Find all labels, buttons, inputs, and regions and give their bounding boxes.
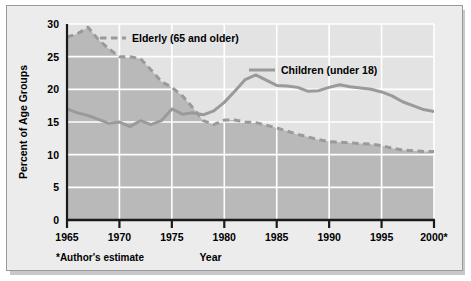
x-tick-label: 1985 <box>265 231 289 243</box>
x-tick-label: 1970 <box>108 231 132 243</box>
y-tick-label: 20 <box>47 83 59 95</box>
x-tick-label: 1975 <box>160 231 184 243</box>
footnote-author-estimate: *Author's estimate <box>56 252 144 263</box>
y-tick-label: 5 <box>53 181 59 193</box>
y-axis-title: Percent of Age Groups <box>17 65 29 179</box>
y-tick-label: 30 <box>47 18 59 30</box>
chart-svg: 0510152025301965197019751980198519901995… <box>0 0 471 281</box>
x-tick-label: 2000* <box>420 231 448 243</box>
chart-screenshot: 0510152025301965197019751980198519901995… <box>0 0 471 281</box>
y-tick-label: 25 <box>47 51 59 63</box>
x-axis-title: Year <box>199 251 221 263</box>
x-tick-label: 1995 <box>370 231 394 243</box>
y-tick-label: 10 <box>47 149 59 161</box>
x-tick-label: 1990 <box>317 231 341 243</box>
x-tick-label: 1965 <box>55 231 79 243</box>
legend-label-elderly: Elderly (65 and older) <box>132 32 239 44</box>
y-tick-label: 0 <box>53 214 59 226</box>
x-tick-label: 1980 <box>213 231 237 243</box>
y-tick-label: 15 <box>47 116 59 128</box>
legend-label-children: Children (under 18) <box>281 64 377 76</box>
